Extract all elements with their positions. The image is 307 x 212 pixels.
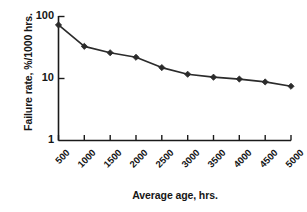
x-axis-ticks <box>59 135 292 141</box>
plot-area <box>0 0 307 212</box>
data-point <box>133 54 139 60</box>
chart-figure: Failure rate, %/1000 hrs. 100 10 1 500 1… <box>0 0 307 212</box>
axis-lines <box>59 16 292 141</box>
data-point <box>185 71 191 77</box>
data-series-markers <box>55 22 294 89</box>
data-point <box>262 79 268 85</box>
data-series-line <box>59 25 292 86</box>
data-point <box>210 74 216 80</box>
data-point <box>288 83 294 89</box>
data-point <box>159 64 165 70</box>
data-point <box>236 76 242 82</box>
data-point <box>107 50 113 56</box>
